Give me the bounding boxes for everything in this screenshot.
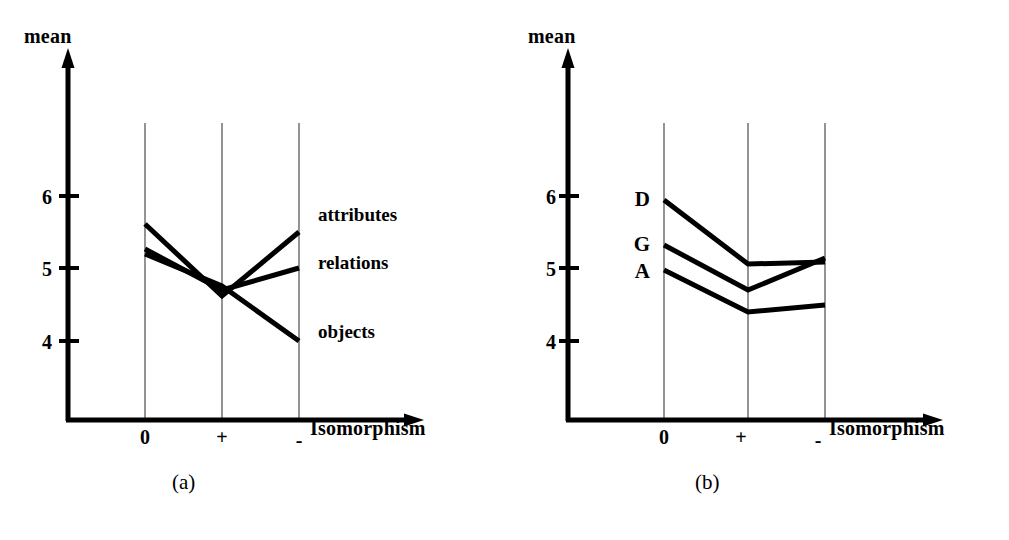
chart-b-plot (504, 0, 1009, 540)
y-axis-arrowhead-a (62, 48, 75, 68)
y-axis-arrowhead-b (562, 48, 575, 68)
figure-two-line-charts: mean Isomorphism 6 5 4 0 + - attributes … (0, 0, 1009, 540)
series-line-d (664, 200, 825, 264)
x-axis-arrowhead-a (404, 414, 424, 427)
chart-panel-b: mean Isomorphism 6 5 4 0 + - D G A (b) (504, 0, 1009, 540)
x-axis-arrowhead-b (923, 414, 943, 427)
chart-panel-a: mean Isomorphism 6 5 4 0 + - attributes … (0, 0, 505, 540)
series-line-a (664, 270, 825, 312)
chart-a-plot (0, 0, 505, 540)
